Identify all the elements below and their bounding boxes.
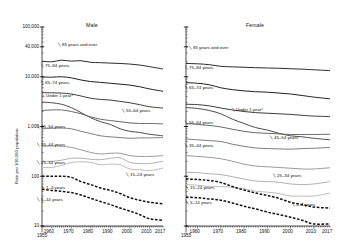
figure-root: Rate per 100,000 population Male Female …	[0, 0, 342, 252]
x-tick-label: 1960	[190, 229, 200, 234]
series-label-65-74-years: 65–74 years	[45, 80, 69, 85]
x-tick-label: 1960	[44, 229, 54, 234]
series-label-5-14-years: 5–14 years	[41, 197, 63, 202]
x-tick-label: 1970	[213, 229, 223, 234]
y-tick-label: 40,000	[25, 44, 39, 49]
series-label-75-84-years: 75–84 years	[45, 63, 69, 68]
series-line	[42, 189, 163, 220]
y-tick-label: 10	[34, 223, 39, 228]
x-tick-label: 2017	[155, 229, 165, 234]
series-label-under-1-year: Under 1 year¹	[236, 107, 263, 112]
series-label-5-14-years: 5–14 years	[190, 200, 212, 205]
x-tick-label: 2000	[283, 229, 293, 234]
series-label-85-years-and-over: 85 years and over	[62, 42, 97, 47]
series-label-75-84-years: 75–84 years	[189, 65, 213, 70]
series-label-35-44-years: 35–44 years	[41, 142, 65, 147]
series-line	[186, 156, 330, 169]
x-tick-label: 1980	[83, 229, 93, 234]
series-label-35-44-years: 35–44 years	[189, 143, 213, 148]
series-label-1-4-years: 1–4 years	[46, 185, 65, 190]
series-label-65-74-years: 65–74 years	[189, 85, 213, 90]
series-label-25-34-years: 25–34 years	[277, 173, 301, 178]
series-label-55-64-years: 55–64 years	[189, 120, 213, 125]
series-line	[186, 123, 330, 134]
x-tick-label: 2010	[141, 229, 151, 234]
x-tick-label: 1990	[259, 229, 269, 234]
x-tick-label: 1990	[102, 229, 112, 234]
series-label-under-1-year: Under 1 year¹	[46, 93, 73, 98]
x-tick-label: 1970	[63, 229, 73, 234]
x-tick-label: 2017	[322, 229, 332, 234]
series-label-55-64-years: 55–64 years	[126, 108, 150, 113]
y-tick-label: 100	[31, 174, 39, 179]
x-tick-label: 2000	[122, 229, 132, 234]
y-tick-label: 10,000	[25, 74, 39, 79]
series-label-25-34-years: 25–34 years	[41, 160, 65, 165]
y-tick-label: 1,000	[28, 124, 40, 129]
x-tick-label: 1955	[37, 233, 47, 238]
x-tick-label: 2010	[306, 229, 316, 234]
y-tick-label: 100,000	[22, 24, 39, 29]
series-label-1-4-years: 1–4 years	[296, 202, 315, 207]
x-tick-label: 1980	[236, 229, 246, 234]
series-label-15-24-years: 15–24 years	[130, 172, 154, 177]
series-line	[186, 172, 330, 184]
series-label-85-years-and-over: 85 years and over	[193, 45, 228, 50]
series-line	[42, 146, 163, 157]
series-label-15-24-years: 15–24 years	[190, 185, 214, 190]
series-label-45-54-years: 45–54 years	[274, 135, 298, 140]
series-label-45-54-years: 45–54 years	[41, 124, 65, 129]
x-tick-label: 1955	[181, 233, 191, 238]
